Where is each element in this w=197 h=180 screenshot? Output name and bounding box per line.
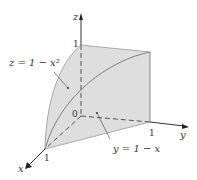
x-tick-label: 1 [44,153,50,163]
plane-face [45,45,150,149]
z-arrow-icon [79,13,83,20]
origin-label: 0 [72,109,78,119]
z-tick-label: 1 [73,39,79,49]
solid-region-diagram: z 1 0 1 x 1 y z = 1 − x² y = 1 − x [0,0,197,180]
x-axis [28,149,45,166]
plane-label: y = 1 − x [112,143,160,154]
y-axis [150,122,184,126]
surface-label: z = 1 − x² [8,57,60,68]
y-tick-label: 1 [149,128,155,138]
z-axis-label: z [72,11,79,22]
y-axis-label: y [179,129,186,140]
x-axis-label: x [18,163,24,174]
